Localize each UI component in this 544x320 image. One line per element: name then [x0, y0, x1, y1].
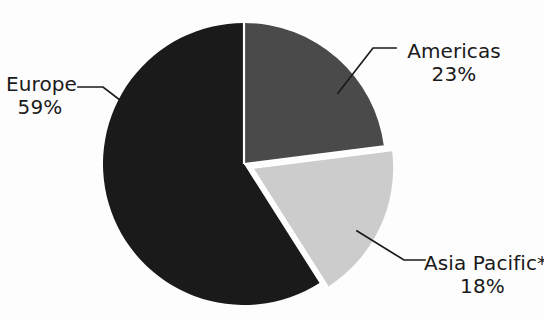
- pie-label-europe-value: 59%: [6, 96, 74, 119]
- pie-label-europe-name: Europe: [6, 73, 74, 96]
- pie-label-americas: Americas 23%: [398, 40, 510, 86]
- pie-label-europe: Europe 59%: [6, 73, 74, 119]
- pie-chart-figure: Europe 59% Americas 23% Asia Pacific* 18…: [0, 0, 544, 320]
- pie-label-americas-name: Americas: [398, 40, 510, 63]
- pie-slice-americas[interactable]: [244, 23, 384, 164]
- pie-label-americas-value: 23%: [398, 63, 510, 86]
- pie-label-asia-pacific-name: Asia Pacific*: [424, 252, 541, 275]
- pie-label-asia-pacific: Asia Pacific* 18%: [424, 252, 541, 298]
- pie-label-asia-pacific-value: 18%: [424, 275, 541, 298]
